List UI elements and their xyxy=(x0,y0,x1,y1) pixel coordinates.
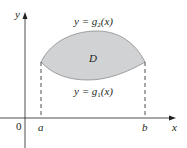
tick-label-b: b xyxy=(142,121,148,133)
upper-curve-label: y = g2(x) xyxy=(73,15,113,29)
lower-curve-arg: (x) xyxy=(101,85,114,98)
region-diagram: y x 0 a b D y = g2(x) y = g1(x) xyxy=(0,0,187,148)
tick-label-a: a xyxy=(38,121,44,133)
origin-label: 0 xyxy=(16,120,22,132)
y-axis-arrow-icon xyxy=(23,12,28,19)
region-label: D xyxy=(88,52,97,64)
upper-curve-arg: (x) xyxy=(101,15,114,28)
x-axis-label: x xyxy=(171,121,177,133)
lower-curve-prefix: y = xyxy=(73,85,92,97)
upper-curve-prefix: y = xyxy=(73,15,92,27)
x-axis-arrow-icon xyxy=(169,116,176,121)
y-axis-label: y xyxy=(14,8,20,20)
lower-curve-label: y = g1(x) xyxy=(73,85,113,99)
